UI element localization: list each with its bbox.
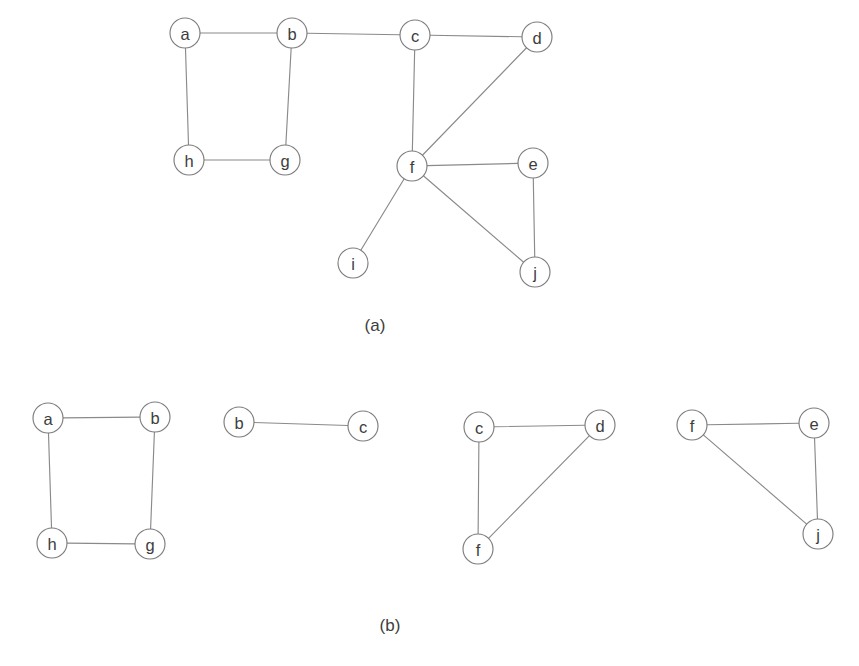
figure-root: abcdefghijabhgbccdffej (a)(b) [0,0,859,666]
node-label-h: h [47,535,56,553]
node-label-e: e [528,155,537,173]
node-label-f: f [476,541,481,559]
node-h-panel-a[interactable]: h [174,145,204,175]
edge-c-f [478,442,479,534]
edge-e-j [533,178,534,257]
node-label-g: g [145,536,154,554]
edge-f-j [423,176,523,262]
node-b-subgraph-1[interactable]: b [140,402,170,432]
graph-figure-canvas: abcdefghijabhgbccdffej (a)(b) [0,0,859,666]
node-c-subgraph-2[interactable]: c [348,411,378,441]
node-label-j: j [532,264,537,282]
node-label-j: j [815,526,820,544]
node-i-panel-a[interactable]: i [338,248,368,278]
edge-b-c [254,422,348,425]
caption-panel-a: (a) [365,316,386,335]
edges-layer [48,33,817,544]
node-c-panel-a[interactable]: c [400,20,430,50]
edge-d-f [489,436,590,539]
node-label-d: d [595,417,604,435]
edge-c-f [412,50,414,151]
edge-f-i [361,179,404,250]
edge-c-d [494,425,585,427]
node-j-panel-a[interactable]: j [520,257,550,287]
node-label-a: a [180,25,190,43]
edge-e-j [815,438,818,519]
node-label-g: g [280,152,289,170]
edge-a-b [63,417,140,418]
node-label-c: c [475,419,483,437]
node-f-subgraph-3[interactable]: f [463,534,493,564]
node-b-panel-a[interactable]: b [277,18,307,48]
node-e-panel-a[interactable]: e [518,148,548,178]
node-label-i: i [351,255,355,273]
node-label-f: f [690,417,695,435]
node-label-c: c [359,418,367,436]
node-f-subgraph-4[interactable]: f [677,410,707,440]
edge-b-c [307,33,400,35]
node-g-subgraph-1[interactable]: g [135,529,165,559]
node-d-panel-a[interactable]: d [522,22,552,52]
edge-b-g [151,432,155,529]
node-h-subgraph-1[interactable]: h [37,528,67,558]
node-label-b: b [150,409,159,427]
node-label-a: a [43,410,53,428]
node-label-e: e [809,415,818,433]
node-c-subgraph-3[interactable]: c [464,412,494,442]
captions-layer: (a)(b) [365,316,401,635]
node-b-subgraph-2[interactable]: b [224,407,254,437]
node-e-subgraph-4[interactable]: e [799,408,829,438]
node-a-panel-a[interactable]: a [170,18,200,48]
edge-c-d [430,35,522,37]
edge-f-j [703,435,806,524]
edge-f-e [707,423,799,425]
node-label-f: f [410,158,415,176]
edge-d-f [422,48,526,155]
edge-h-g [67,543,135,544]
node-label-b: b [287,25,296,43]
edge-b-g [286,48,291,145]
node-g-panel-a[interactable]: g [270,145,300,175]
node-label-b: b [234,414,243,432]
edge-f-e [427,163,518,165]
caption-panel-b: (b) [380,616,401,635]
node-j-subgraph-4[interactable]: j [803,519,833,549]
node-label-c: c [411,27,419,45]
node-label-d: d [532,29,541,47]
node-label-h: h [184,152,193,170]
node-f-panel-a[interactable]: f [397,151,427,181]
node-d-subgraph-3[interactable]: d [585,410,615,440]
edge-a-h [185,48,188,145]
edge-a-h [48,433,51,528]
node-a-subgraph-1[interactable]: a [33,403,63,433]
